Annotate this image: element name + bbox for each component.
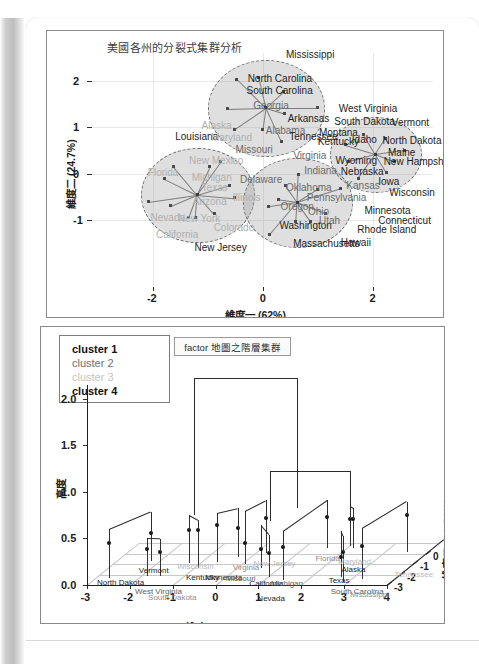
state-label: Alaska — [202, 121, 232, 131]
data-point — [147, 200, 150, 203]
bottom-chart-title: factor 地圖之階層集群 — [174, 337, 291, 356]
y-tick — [87, 81, 92, 82]
legend-item-3: cluster 3 — [72, 371, 114, 383]
dendrogram-stem — [238, 528, 239, 557]
state-label: Florida — [148, 168, 179, 178]
height-tick-label: 0.5 — [61, 532, 76, 544]
state-label: Wyoming — [335, 156, 377, 166]
x-tick — [373, 287, 374, 291]
state-label: North Dakota — [383, 136, 442, 146]
dendrogram-mid-riser — [350, 471, 351, 522]
dendrogram-stem — [217, 525, 218, 561]
x-tick-label: -2 — [147, 292, 157, 304]
dendrogram-root-link — [194, 378, 297, 379]
leaf-label: Tennessee — [395, 570, 434, 579]
state-label: Vermont — [392, 118, 429, 128]
scan-gutter-shadow — [0, 18, 24, 664]
x-tick-label: 2 — [369, 292, 375, 304]
state-label: Missouri — [236, 145, 273, 155]
state-label: Illinois — [233, 193, 261, 203]
leaf-label: Wisconsin — [177, 562, 213, 571]
state-label: Virginia — [293, 151, 326, 161]
dendrogram-merge-link — [362, 502, 407, 530]
dendrogram-stem — [109, 543, 110, 578]
data-point — [228, 184, 231, 187]
state-label: Hawaii — [341, 238, 371, 248]
y-tick-label: 2 — [73, 75, 79, 87]
dendrogram-stem — [353, 519, 354, 548]
data-point — [280, 140, 283, 143]
x-tick — [263, 287, 264, 291]
paper-bottom-rule — [26, 640, 479, 641]
height-tick — [83, 538, 88, 539]
top-yaxis-title: 維度二 (24.7%) — [63, 139, 78, 209]
dendrogram-merge-link — [217, 508, 238, 514]
height-tick — [83, 492, 88, 493]
height-axis — [87, 385, 88, 585]
leaf-label: Texas — [329, 576, 350, 585]
dendrogram-merge-link — [109, 512, 151, 530]
state-label: Idaho — [352, 135, 377, 145]
dendrogram-mid-link — [270, 471, 349, 472]
dendrogram-riser — [245, 511, 246, 543]
dendrogram-riser — [147, 538, 148, 549]
dendrogram-mid-riser — [270, 471, 271, 520]
x-tick-label: -2 — [123, 591, 133, 603]
floor-gridline-z — [126, 554, 426, 555]
dendrogram-riser — [160, 539, 161, 552]
dendrogram-merge-link — [283, 500, 328, 532]
dendrogram-riser — [269, 535, 270, 554]
data-point — [169, 204, 172, 207]
x-tick-label: 0 — [260, 292, 266, 304]
dendrogram-riser — [238, 508, 239, 528]
y-tick — [87, 174, 92, 175]
data-point — [267, 205, 270, 208]
state-label: West Virginia — [339, 104, 398, 114]
state-label: South Carolina — [247, 86, 313, 96]
dendrogram-riser — [283, 531, 284, 547]
data-point — [261, 128, 264, 131]
state-label: Colorado — [214, 223, 255, 233]
x-tick — [216, 585, 217, 589]
top-plot-area: MississippiNorth CarolinaSouth CarolinaG… — [93, 53, 433, 285]
dendrogram-stem — [350, 519, 351, 546]
height-tick — [83, 445, 88, 446]
state-label: Arizona — [193, 197, 227, 207]
data-point — [268, 233, 271, 236]
dendrogram-riser — [353, 508, 354, 520]
height-tick-label: 2.0 — [61, 393, 76, 405]
dendrogram-stem — [407, 515, 408, 552]
data-point — [226, 107, 229, 110]
state-label: Arkansas — [288, 114, 330, 124]
dendrogram-stem — [189, 530, 190, 563]
data-point — [233, 128, 236, 131]
y-tick — [87, 127, 92, 128]
leaf-label: South Dakota — [148, 593, 196, 602]
state-label: Utah — [319, 216, 340, 226]
height-tick-label: 0.0 — [61, 579, 76, 591]
bottom-depth-axis-title: 維度二 (24.74%) — [439, 499, 445, 580]
top-xaxis-title: 維度一 (62%) — [225, 307, 286, 318]
state-label: New Jersey — [194, 243, 246, 253]
state-label: South Dakota — [334, 117, 395, 127]
data-point — [316, 106, 319, 109]
state-label: Pennsylvania — [307, 193, 366, 203]
dendrogram-stem — [266, 518, 267, 553]
data-point — [277, 198, 280, 201]
dendrogram-root-riser — [194, 378, 195, 515]
height-tick — [83, 399, 88, 400]
y-tick-label: -1 — [73, 214, 83, 226]
divisive-cluster-figure: 美國各州的分裂式集群分析 MississippiNorth CarolinaSo… — [46, 30, 444, 318]
dendrogram-riser — [362, 528, 363, 546]
dendrogram-riser — [198, 520, 199, 530]
dendrogram-riser — [266, 500, 267, 518]
dendrogram-root-riser — [297, 378, 298, 508]
state-label: New Hampshire — [384, 157, 444, 167]
state-label: Georgia — [253, 101, 289, 111]
leaf-label: New Jersey — [254, 559, 296, 568]
state-label: New Mexico — [189, 156, 243, 166]
leaf-label: Michigan — [271, 579, 303, 588]
dendrogram-riser — [327, 500, 328, 517]
data-point — [208, 165, 211, 168]
state-label: Maryland — [211, 133, 252, 143]
